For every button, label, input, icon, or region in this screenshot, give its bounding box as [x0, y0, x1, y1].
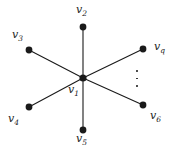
vertex-layer [26, 24, 147, 134]
graph-canvas [0, 0, 173, 151]
vertex-label-subscript-v3: 3 [18, 34, 23, 43]
ellipsis-dot [136, 70, 138, 72]
vertex-label-v2: v2 [76, 4, 87, 15]
vertical-ellipsis-icon [136, 70, 138, 87]
graph-vertex-v3 [26, 47, 33, 54]
vertex-label-subscript-v1: 1 [74, 89, 79, 98]
vertex-label-subscript-v4: 4 [14, 118, 19, 127]
graph-vertex-v4 [26, 104, 33, 111]
vertex-label-subscript-v2: 2 [82, 9, 87, 18]
graph-figure: v1v2v3v4v5vqv6 [0, 0, 173, 151]
vertex-label-subscript-v6: 6 [156, 115, 161, 124]
graph-edge-v1-v3 [29, 50, 83, 78]
vertex-label-subscript-vq: q [160, 46, 165, 55]
vertex-label-v6: v6 [150, 110, 161, 121]
graph-vertex-vq [140, 46, 147, 53]
vertex-label-subscript-v5: 5 [82, 138, 87, 147]
graph-vertex-v2 [80, 24, 87, 31]
vertex-label-v4: v4 [8, 113, 19, 124]
vertex-label-vq: vq [154, 41, 165, 52]
vertex-label-v5: v5 [76, 133, 87, 144]
ellipsis-dot [136, 78, 138, 80]
vertex-label-v1: v1 [68, 84, 79, 95]
graph-edge-v1-vq [83, 49, 143, 78]
ellipsis-dot [136, 85, 138, 87]
graph-edge-v1-v6 [83, 78, 143, 105]
graph-vertex-v1 [79, 74, 86, 81]
graph-vertex-v6 [140, 102, 147, 109]
vertex-label-v3: v3 [12, 29, 23, 40]
